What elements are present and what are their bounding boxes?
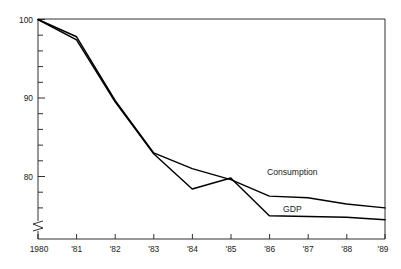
y-tick-label-100: 100 [19,15,33,25]
x-axis-labels: 1980 '81 '82 '83 '84 '85 '86 '87 '88 '89 [30,244,389,254]
y-axis-ticks [38,20,45,208]
series-line-consumption [38,20,385,208]
x-tick-label-1988: '88 [341,244,352,254]
x-tick-label-1989: '89 [378,244,389,254]
y-tick-label-90: 90 [24,93,34,103]
x-axis-ticks [38,234,385,239]
y-axis-break-icon [33,221,43,231]
y-tick-label-80: 80 [24,172,34,182]
chart-figure: 100 90 80 1980 '81 '82 '83 '84 '85 '86 [0,0,401,269]
x-tick-label-1980: 1980 [30,244,49,254]
x-tick-label-1986: '86 [264,244,275,254]
x-tick-label-1987: '87 [303,244,314,254]
x-tick-label-1983: '83 [148,244,159,254]
x-tick-label-1982: '82 [110,244,121,254]
y-axis-labels: 100 90 80 [19,15,33,182]
series-line-gdp [38,20,385,220]
x-tick-label-1985: '85 [226,244,237,254]
x-tick-label-1981: '81 [71,244,82,254]
series-annotation-gdp: GDP [283,204,302,214]
x-tick-label-1984: '84 [187,244,198,254]
line-chart: 100 90 80 1980 '81 '82 '83 '84 '85 '86 [0,0,401,269]
series-annotation-consumption: Consumption [267,167,318,177]
